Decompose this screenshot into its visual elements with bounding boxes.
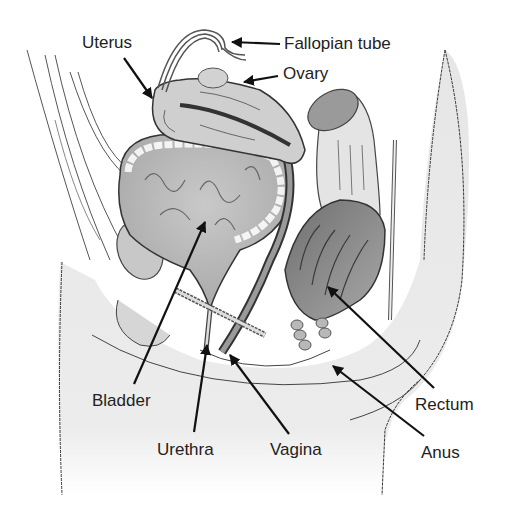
- uterus-arrow: [124, 58, 152, 98]
- label-fallopian-tube: Fallopian tube: [284, 35, 391, 52]
- label-uterus: Uterus: [82, 34, 132, 51]
- ovary-arrow: [244, 76, 278, 82]
- fallopian-tube-arrow: [232, 42, 280, 44]
- label-rectum: Rectum: [415, 396, 474, 413]
- label-vagina: Vagina: [270, 441, 322, 458]
- label-bladder: Bladder: [92, 392, 151, 409]
- label-anus: Anus: [421, 444, 460, 461]
- anal-sphincter: [291, 318, 331, 350]
- ovary: [198, 68, 228, 88]
- label-urethra: Urethra: [157, 441, 214, 458]
- urethra: [206, 310, 210, 350]
- label-ovary: Ovary: [283, 65, 328, 82]
- bladder: [119, 134, 292, 310]
- abdominal-wall: [27, 50, 130, 260]
